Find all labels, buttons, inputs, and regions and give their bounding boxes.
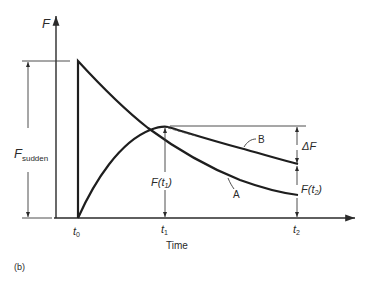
panel-label: (b): [14, 262, 25, 272]
x-axis-label: Time: [166, 240, 188, 251]
curve-b-leader: [244, 139, 256, 147]
tick-t0: t0: [73, 225, 80, 238]
tick-t2: t2: [293, 223, 300, 236]
force-time-diagram: F Fsudden F(t1) F(t2) ΔF A B t0 t1 t2 Ti…: [0, 0, 368, 288]
f-t1-label: F(t1): [151, 176, 172, 189]
delta-f-label: ΔF: [301, 140, 317, 152]
diagram-svg: F Fsudden F(t1) F(t2) ΔF A B t0 t1 t2 Ti…: [0, 0, 368, 288]
curve-b-label: B: [258, 134, 265, 145]
gradual-load-curve: [78, 127, 168, 218]
f-sudden-label: Fsudden: [14, 146, 48, 163]
y-axis-label: F: [42, 16, 51, 31]
curve-a-label: A: [233, 189, 240, 200]
f-t2-label: F(t2): [301, 183, 322, 196]
curve-a-leader: [228, 178, 234, 189]
sudden-load-curve: [78, 61, 298, 218]
curve-b: [168, 127, 298, 164]
tick-t1: t1: [161, 223, 168, 236]
